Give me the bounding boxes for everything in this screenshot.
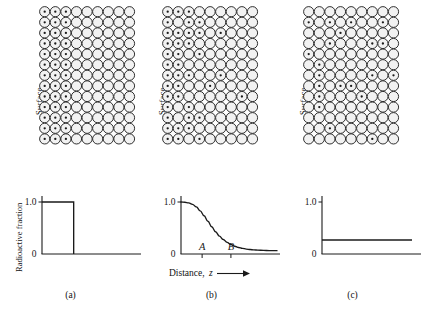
- tracer-atom-dot: [188, 74, 190, 76]
- tracer-atom-dot: [44, 74, 46, 76]
- tracer-atom-dot: [65, 21, 67, 23]
- tracer-atom-dot: [220, 74, 222, 76]
- y-tick-label-zero: 0: [171, 249, 176, 259]
- tracer-atom-dot: [54, 11, 56, 13]
- tracer-atom-dot: [318, 106, 320, 108]
- tracer-atom-dot: [177, 42, 179, 44]
- tracer-atom-dot: [65, 95, 67, 97]
- tracer-atom-dot: [54, 32, 56, 34]
- y-tick-label-high: 1.0: [25, 197, 37, 207]
- tracer-atom-dot: [241, 95, 243, 97]
- tracer-atom-dot: [177, 11, 179, 13]
- plot-c: 1.00: [296, 186, 421, 274]
- panel-a: Surface Radioactive fraction 1.00 (a): [0, 0, 141, 310]
- caption-b: (b): [141, 290, 282, 300]
- tracer-atom-dot: [371, 74, 373, 76]
- tracer-atom-dot: [44, 85, 46, 87]
- tracer-atom-dot: [329, 127, 331, 129]
- x-axis-label-b: Distance, z: [169, 268, 251, 278]
- tracer-atom-dot: [308, 53, 310, 55]
- tracer-atom-dot: [167, 106, 169, 108]
- figure-root: Surface Radioactive fraction 1.00 (a) Su…: [0, 0, 423, 310]
- tracer-atom-dot: [54, 21, 56, 23]
- tracer-atom-dot: [318, 64, 320, 66]
- tracer-atom-dot: [65, 127, 67, 129]
- tracer-atom-dot: [44, 21, 46, 23]
- tracer-atom-dot: [167, 85, 169, 87]
- tracer-atom-dot: [382, 42, 384, 44]
- tracer-atom-dot: [198, 21, 200, 23]
- tracer-atom-dot: [318, 85, 320, 87]
- step-curve: [42, 202, 74, 254]
- tracer-atom-dot: [44, 117, 46, 119]
- tracer-atom-dot: [54, 74, 56, 76]
- tracer-atom-dot: [361, 95, 363, 97]
- tracer-atom-dot: [392, 74, 394, 76]
- tracer-atom-dot: [65, 32, 67, 34]
- tracer-atom-dot: [167, 21, 169, 23]
- x-axis-label-variable: z: [209, 268, 213, 278]
- lattice-c: [303, 6, 405, 166]
- tracer-atom-dot: [65, 85, 67, 87]
- tracer-atom-dot: [188, 42, 190, 44]
- tracer-atom-dot: [167, 11, 169, 13]
- tracer-atom-dot: [44, 95, 46, 97]
- tracer-atom-dot: [54, 138, 56, 140]
- tracer-atom-dot: [65, 117, 67, 119]
- y-tick-label-high: 1.0: [164, 197, 176, 207]
- tracer-atom-dot: [65, 106, 67, 108]
- tracer-atom-dot: [54, 95, 56, 97]
- panel-b: Surface 1.00AB Distance, z (b): [141, 0, 282, 310]
- tracer-atom-dot: [44, 11, 46, 13]
- y-tick-label-zero: 0: [312, 249, 317, 259]
- tracer-atom-dot: [177, 138, 179, 140]
- lattice-b: [162, 6, 264, 166]
- tracer-atom-dot: [177, 64, 179, 66]
- tracer-atom-dot: [54, 106, 56, 108]
- tracer-atom-dot: [44, 64, 46, 66]
- tracer-atom-dot: [318, 95, 320, 97]
- tracer-atom-dot: [44, 32, 46, 34]
- tracer-atom-dot: [198, 53, 200, 55]
- tracer-atom-dot: [167, 64, 169, 66]
- tracer-atom-dot: [54, 117, 56, 119]
- tracer-atom-dot: [188, 11, 190, 13]
- tracer-atom-dot: [329, 42, 331, 44]
- tracer-atom-dot: [65, 53, 67, 55]
- tracer-atom-dot: [177, 127, 179, 129]
- tracer-atom-dot: [339, 85, 341, 87]
- tracer-atom-dot: [44, 53, 46, 55]
- tracer-atom-dot: [167, 138, 169, 140]
- tracer-atom-dot: [167, 74, 169, 76]
- tracer-atom-dot: [198, 138, 200, 140]
- tracer-atom-dot: [339, 32, 341, 34]
- tracer-atom-dot: [188, 32, 190, 34]
- tracer-atom-dot: [44, 42, 46, 44]
- tracer-atom-dot: [65, 138, 67, 140]
- tracer-atom-dot: [54, 42, 56, 44]
- plot-a: 1.00: [16, 186, 141, 274]
- tracer-atom-dot: [177, 74, 179, 76]
- tracer-atom-dot: [167, 42, 169, 44]
- tracer-atom-dot: [371, 42, 373, 44]
- plot-b: 1.00AB: [155, 186, 280, 274]
- panel-c: Surface 1.00 (c): [282, 0, 423, 310]
- tracer-atom-dot: [167, 95, 169, 97]
- tracer-atom-dot: [54, 64, 56, 66]
- tracer-atom-dot: [198, 32, 200, 34]
- tracer-atom-dot: [329, 21, 331, 23]
- tracer-atom-dot: [65, 42, 67, 44]
- tracer-atom-dot: [44, 106, 46, 108]
- tracer-atom-dot: [167, 53, 169, 55]
- tracer-atom-dot: [54, 85, 56, 87]
- tracer-atom-dot: [177, 32, 179, 34]
- x-axis-arrow-icon: [217, 269, 251, 278]
- tracer-atom-dot: [220, 32, 222, 34]
- tracer-atom-dot: [188, 117, 190, 119]
- y-tick-label-high: 1.0: [305, 197, 317, 207]
- tracer-atom-dot: [177, 85, 179, 87]
- tracer-atom-dot: [188, 127, 190, 129]
- tracer-atom-dot: [167, 127, 169, 129]
- lattice-a: [39, 6, 141, 166]
- tracer-atom-dot: [54, 127, 56, 129]
